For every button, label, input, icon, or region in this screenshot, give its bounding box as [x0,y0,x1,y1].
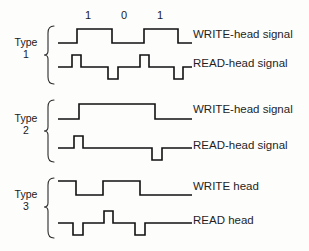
waveform-figure: 1 0 1 Type 1 WRITE-head signal READ-head… [0,0,309,251]
waveform-type3-read [0,0,309,251]
signal-label-type3-write: WRITE head [193,181,259,193]
read-trace [58,211,192,235]
signal-label-type3-read: READ head [193,215,254,227]
